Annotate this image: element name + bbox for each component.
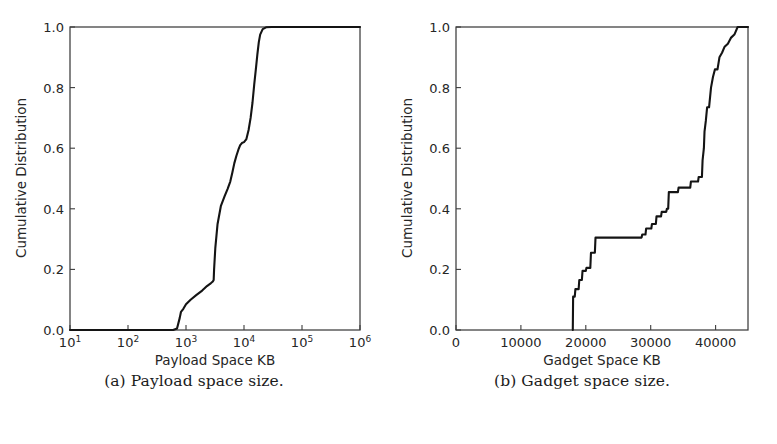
x-tick-label: 104 (233, 334, 256, 350)
y-axis-label: Cumulative Distribution (399, 98, 415, 258)
gadget-space-svg: 0.0 0.2 0.4 0.6 0.8 1.0 0 10 (388, 0, 776, 372)
subfigure-a: 0.0 0.2 0.4 0.6 0.8 1.0 (0, 0, 388, 444)
plot-frame (70, 27, 360, 330)
cdf-curve (70, 27, 360, 330)
y-tick-label: 0.2 (429, 262, 450, 277)
x-tick-label: 106 (349, 334, 372, 350)
x-axis-label: Gadget Space KB (543, 352, 660, 368)
x-tick-label: 40000 (695, 335, 736, 350)
y-axis-tick-labels: 0.0 0.2 0.4 0.6 0.8 1.0 (429, 20, 450, 338)
x-tick-label: 10000 (500, 335, 541, 350)
subfigure-b: 0.0 0.2 0.4 0.6 0.8 1.0 0 10 (388, 0, 776, 444)
y-tick-label: 1.0 (43, 20, 64, 35)
y-tick-label: 0.6 (429, 141, 450, 156)
y-axis-label: Cumulative Distribution (13, 98, 29, 258)
x-tick-mantissa: 10 (59, 335, 76, 350)
x-tick-mantissa: 10 (175, 335, 192, 350)
payload-space-svg: 0.0 0.2 0.4 0.6 0.8 1.0 (0, 0, 388, 372)
x-tick-label: 101 (59, 334, 81, 350)
x-tick-label: 0 (452, 335, 460, 350)
x-tick-label: 102 (117, 334, 139, 350)
y-tick-label: 0.4 (43, 202, 64, 217)
y-tick-label: 0.8 (429, 81, 450, 96)
y-tick-label: 0.0 (429, 323, 450, 338)
x-tick-label: 103 (175, 334, 197, 350)
plot-frame (456, 27, 748, 330)
x-tick-label: 105 (291, 334, 313, 350)
x-tick-mantissa: 10 (233, 335, 250, 350)
x-tick-mantissa: 10 (349, 335, 366, 350)
y-tick-label: 0.4 (429, 202, 450, 217)
payload-space-chart: 0.0 0.2 0.4 0.6 0.8 1.0 (0, 0, 388, 372)
x-tick-exponent: 5 (307, 334, 313, 344)
y-tick-label: 0.6 (43, 141, 64, 156)
x-axis-tick-labels: 0 10000 20000 30000 40000 (452, 335, 736, 350)
subfigure-b-caption: (b) Gadget space size. (388, 372, 776, 390)
x-tick-exponent: 2 (133, 334, 139, 344)
x-tick-label: 30000 (630, 335, 671, 350)
x-tick-mantissa: 10 (117, 335, 134, 350)
x-axis-tick-labels: 101 102 103 104 105 106 (59, 334, 372, 350)
x-tick-mantissa: 10 (291, 335, 308, 350)
cdf-curve (573, 27, 748, 330)
x-tick-exponent: 4 (249, 334, 255, 344)
x-axis-label: Payload Space KB (155, 352, 276, 368)
y-tick-label: 0.2 (43, 262, 64, 277)
y-tick-label: 1.0 (429, 20, 450, 35)
figure-panel-container: 0.0 0.2 0.4 0.6 0.8 1.0 (0, 0, 777, 444)
x-axis-ticks (456, 325, 716, 330)
x-tick-exponent: 6 (365, 334, 371, 344)
y-axis-tick-labels: 0.0 0.2 0.4 0.6 0.8 1.0 (43, 20, 64, 338)
y-axis-ticks (70, 27, 75, 330)
x-tick-exponent: 3 (191, 334, 197, 344)
x-tick-label: 20000 (565, 335, 606, 350)
subfigure-a-caption: (a) Payload space size. (0, 372, 388, 390)
y-axis-ticks (456, 27, 461, 330)
gadget-space-chart: 0.0 0.2 0.4 0.6 0.8 1.0 0 10 (388, 0, 776, 372)
x-tick-exponent: 1 (75, 334, 81, 344)
y-tick-label: 0.8 (43, 81, 64, 96)
